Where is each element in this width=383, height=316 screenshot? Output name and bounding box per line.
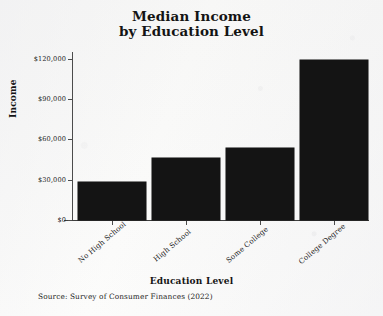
chart-title-line-1: Median Income [0,9,383,24]
source-note: Source: Survey of Consumer Finances (202… [38,292,213,301]
bar-no-high-school [78,182,146,220]
chart-title: Median Income by Education Level [0,9,383,39]
y-tick-label: $90,000 [38,95,66,103]
x-tick-mark [334,221,335,225]
bar-college-degree [300,60,368,220]
x-tick-mark [260,221,261,225]
y-tick-mark [68,59,72,60]
y-tick-label: $30,000 [38,176,66,184]
plot-area: $0 $30,000 $60,000 $90,000 $120,000 [72,52,362,220]
y-tick-label: $120,000 [34,55,66,63]
y-tick-mark [68,139,72,140]
x-tick-label: College Degree [297,227,341,266]
bar-some-college [226,148,294,220]
chart-title-line-2: by Education Level [0,24,383,39]
bar-high-school [152,158,220,221]
y-tick-mark [68,180,72,181]
x-tick-label: High School [150,227,193,265]
x-axis-title: Education Level [0,276,383,286]
y-axis-title: Income [8,79,18,118]
x-tick-layer: No High School High School Some College … [72,221,362,276]
x-tick-mark [112,221,113,225]
y-tick-mark [68,99,72,100]
y-tick-label: $60,000 [38,135,66,143]
y-tick-label: $0 [57,216,66,224]
x-tick-label: Some College [224,227,267,265]
x-tick-label: No High School [76,227,119,265]
x-tick-mark [186,221,187,225]
bar-chart-figure: Median Income by Education Level $0 $30,… [0,0,383,316]
